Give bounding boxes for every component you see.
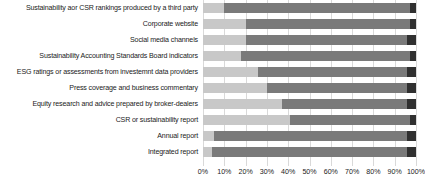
bar-track (203, 67, 416, 77)
bar-track (203, 3, 416, 13)
bar-segment-segment-1[interactable] (203, 147, 212, 157)
bar-segment-segment-3[interactable] (410, 115, 416, 125)
bar-segment-segment-1[interactable] (203, 115, 290, 125)
category-label: Integrated report (0, 148, 203, 156)
bar-area (203, 96, 416, 112)
chart-row: Press coverage and business commentary (0, 80, 423, 96)
bar-segment-segment-1[interactable] (203, 67, 258, 77)
bar-segment-segment-3[interactable] (407, 147, 416, 157)
bar-segment-segment-3[interactable] (407, 131, 416, 141)
category-label: Annual report (0, 132, 203, 140)
x-tick-label: 40% (281, 168, 295, 177)
category-label: Social media channels (0, 36, 203, 44)
x-tick-label: 0% (198, 168, 208, 177)
bar-segment-segment-2[interactable] (212, 147, 408, 157)
bar-area (203, 32, 416, 48)
category-label: Sustainability Accounting Standards Boar… (0, 52, 203, 60)
bar-segment-segment-2[interactable] (258, 67, 407, 77)
x-tick-label: 10% (217, 168, 231, 177)
stacked-bar[interactable] (203, 147, 416, 157)
bar-area (203, 144, 416, 160)
stacked-bar[interactable] (203, 131, 416, 141)
bar-segment-segment-3[interactable] (407, 67, 416, 77)
bar-area (203, 64, 416, 80)
bar-track (203, 147, 416, 157)
bar-area (203, 16, 416, 32)
bar-track (203, 115, 416, 125)
bar-segment-segment-1[interactable] (203, 51, 241, 61)
chart-row: CSR or sustainability report (0, 112, 423, 128)
bar-track (203, 19, 416, 29)
chart-row: Equity research and advice prepared by b… (0, 96, 423, 112)
category-label: Press coverage and business commentary (0, 84, 203, 92)
bar-segment-segment-1[interactable] (203, 83, 267, 93)
bar-segment-segment-1[interactable] (203, 35, 246, 45)
bar-segment-segment-2[interactable] (246, 35, 408, 45)
category-label: Sustainability aor CSR rankings produced… (0, 4, 203, 12)
bar-area (203, 48, 416, 64)
x-tick-label: 100% (407, 168, 425, 177)
bar-segment-segment-1[interactable] (203, 3, 224, 13)
bar-segment-segment-2[interactable] (267, 83, 408, 93)
stacked-bar[interactable] (203, 19, 416, 29)
bar-segment-segment-3[interactable] (407, 35, 416, 45)
stacked-bar[interactable] (203, 3, 416, 13)
bar-track (203, 35, 416, 45)
chart-row: Corporate website (0, 16, 423, 32)
bar-segment-segment-2[interactable] (282, 99, 408, 109)
chart-row: Integrated report (0, 144, 423, 160)
bar-segment-segment-1[interactable] (203, 19, 246, 29)
chart-row: ESG ratings or assessments from investem… (0, 64, 423, 80)
bar-rows: Sustainability aor CSR rankings produced… (0, 0, 423, 160)
x-tick-label: 60% (324, 168, 338, 177)
stacked-bar[interactable] (203, 83, 416, 93)
bar-segment-segment-1[interactable] (203, 131, 214, 141)
x-tick-label: 90% (388, 168, 402, 177)
category-label: Equity research and advice prepared by b… (0, 100, 203, 108)
bar-area (203, 128, 416, 144)
chart-row: Social media channels (0, 32, 423, 48)
bar-segment-segment-3[interactable] (410, 51, 416, 61)
x-tick-label: 50% (302, 168, 316, 177)
chart-row: Sustainability Accounting Standards Boar… (0, 48, 423, 64)
x-tick-label: 30% (260, 168, 274, 177)
stacked-bar[interactable] (203, 51, 416, 61)
bar-segment-segment-3[interactable] (410, 3, 416, 13)
x-tick-label: 80% (366, 168, 380, 177)
bar-area (203, 112, 416, 128)
x-tick-label: 20% (238, 168, 252, 177)
bar-segment-segment-2[interactable] (246, 19, 410, 29)
category-label: Corporate website (0, 20, 203, 28)
plot-area: Sustainability aor CSR rankings produced… (0, 0, 423, 166)
bar-segment-segment-3[interactable] (410, 19, 416, 29)
stacked-bar[interactable] (203, 115, 416, 125)
chart-row: Sustainability aor CSR rankings produced… (0, 0, 423, 16)
stacked-bar[interactable] (203, 99, 416, 109)
category-label: CSR or sustainability report (0, 116, 203, 124)
bar-segment-segment-1[interactable] (203, 99, 282, 109)
bar-segment-segment-3[interactable] (407, 99, 416, 109)
category-label: ESG ratings or assessments from investem… (0, 68, 203, 76)
chart-row: Annual report (0, 128, 423, 144)
bar-area (203, 80, 416, 96)
bar-area (203, 0, 416, 16)
bar-segment-segment-2[interactable] (290, 115, 409, 125)
x-tick-label: 70% (345, 168, 359, 177)
bar-track (203, 131, 416, 141)
bar-segment-segment-3[interactable] (407, 83, 416, 93)
stacked-bar[interactable] (203, 67, 416, 77)
stacked-bar[interactable] (203, 35, 416, 45)
bar-track (203, 51, 416, 61)
bar-segment-segment-2[interactable] (214, 131, 408, 141)
bar-segment-segment-2[interactable] (224, 3, 409, 13)
bar-segment-segment-2[interactable] (241, 51, 409, 61)
bar-track (203, 83, 416, 93)
x-axis: 0%10%20%30%40%50%60%70%80%90%100% (203, 166, 416, 184)
bar-track (203, 99, 416, 109)
